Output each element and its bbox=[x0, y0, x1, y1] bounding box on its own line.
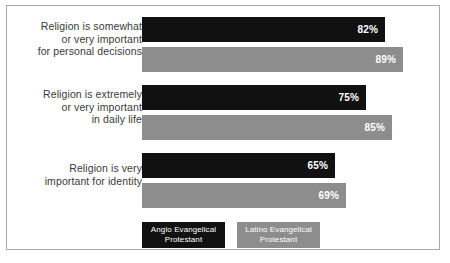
bar-row-latino: 89% bbox=[142, 47, 403, 72]
legend-item-latino-evangelical-protestant[interactable]: Latino Evangelical Protestant bbox=[237, 222, 320, 248]
bar-value-label: 89% bbox=[375, 55, 396, 65]
bar-row-latino: 69% bbox=[142, 183, 346, 208]
legend-label-line: Protestant bbox=[144, 235, 223, 245]
category-label-identity: Religion is very important for identity bbox=[22, 162, 142, 187]
chart-legend: Anglo Evangelical Protestant Latino Evan… bbox=[142, 222, 320, 248]
bar-latino-identity[interactable]: 69% bbox=[142, 183, 346, 208]
bar-value-label: 82% bbox=[357, 25, 378, 35]
bar-row-anglo: 82% bbox=[142, 17, 385, 42]
legend-label-line: Anglo Evangelical bbox=[144, 225, 223, 235]
chart-screenshot: Religion is somewhat or very important f… bbox=[0, 0, 450, 263]
bar-value-label: 65% bbox=[307, 161, 328, 171]
bar-row-anglo: 75% bbox=[142, 85, 366, 110]
bar-value-label: 69% bbox=[318, 191, 339, 201]
category-label-personal-decisions: Religion is somewhat or very important f… bbox=[22, 20, 142, 58]
category-label-line: Religion is very bbox=[22, 162, 142, 175]
bar-row-latino: 85% bbox=[142, 115, 392, 140]
category-label-line: important for identity bbox=[22, 175, 142, 188]
bar-latino-daily-life[interactable]: 85% bbox=[142, 115, 392, 140]
category-label-line: or very important bbox=[22, 101, 142, 114]
legend-label-line: Protestant bbox=[239, 235, 318, 245]
category-label-line: for personal decisions bbox=[22, 45, 142, 58]
bar-latino-personal-decisions[interactable]: 89% bbox=[142, 47, 403, 72]
bar-row-anglo: 65% bbox=[142, 153, 335, 178]
category-label-line: Religion is extremely bbox=[22, 88, 142, 101]
category-label-line: Religion is somewhat bbox=[22, 20, 142, 33]
bar-chart-plot-area: Religion is somewhat or very important f… bbox=[0, 0, 450, 263]
category-label-daily-life: Religion is extremely or very important … bbox=[22, 88, 142, 126]
bar-anglo-identity[interactable]: 65% bbox=[142, 153, 335, 178]
legend-item-anglo-evangelical-protestant[interactable]: Anglo Evangelical Protestant bbox=[142, 222, 225, 248]
bar-value-label: 85% bbox=[364, 123, 385, 133]
legend-label-line: Latino Evangelical bbox=[239, 225, 318, 235]
category-label-line: or very important bbox=[22, 33, 142, 46]
bar-value-label: 75% bbox=[338, 93, 359, 103]
category-label-line: in daily life bbox=[22, 113, 142, 126]
bar-anglo-personal-decisions[interactable]: 82% bbox=[142, 17, 385, 42]
bar-anglo-daily-life[interactable]: 75% bbox=[142, 85, 366, 110]
